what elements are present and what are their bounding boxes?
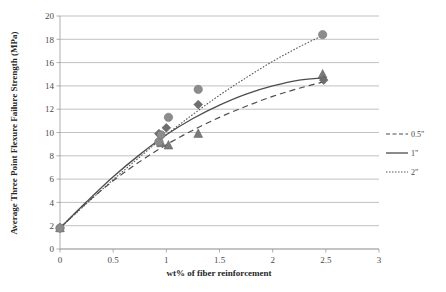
data-point-circle bbox=[56, 224, 64, 232]
x-axis-title: wt% of fiber reinforcement bbox=[166, 268, 271, 278]
x-tick-label: 3 bbox=[377, 255, 382, 265]
data-point-circle bbox=[318, 30, 326, 38]
data-point-circle bbox=[164, 113, 172, 121]
y-tick-label: 6 bbox=[50, 174, 55, 184]
x-tick-label: 2 bbox=[270, 255, 275, 265]
y-tick-label: 8 bbox=[50, 151, 55, 161]
legend-label: 0.5" bbox=[411, 130, 424, 139]
data-point-circle bbox=[194, 85, 202, 93]
y-tick-label: 20 bbox=[45, 11, 55, 21]
y-tick-label: 4 bbox=[50, 198, 55, 208]
x-axis-ticks-group: 00.511.522.53 bbox=[58, 249, 382, 265]
y-tick-label: 14 bbox=[45, 81, 55, 91]
chart-container: 02468101214161820 00.511.522.53 Average … bbox=[0, 0, 446, 292]
x-tick-label: 1.5 bbox=[214, 255, 226, 265]
legend-label: 1" bbox=[411, 149, 418, 158]
y-axis-title: Average Three Point Flexure Failure Stre… bbox=[9, 32, 19, 235]
x-tick-label: 0.5 bbox=[108, 255, 120, 265]
x-tick-label: 2.5 bbox=[320, 255, 332, 265]
legend-label: 2" bbox=[411, 168, 418, 177]
x-tick-label: 1 bbox=[164, 255, 169, 265]
legend: 0.5"1"2" bbox=[386, 130, 424, 177]
y-tick-label: 12 bbox=[45, 104, 54, 114]
y-tick-label: 18 bbox=[45, 35, 55, 45]
y-axis-ticks-group: 02468101214161820 bbox=[45, 11, 60, 254]
flexure-strength-scatter-chart: 02468101214161820 00.511.522.53 Average … bbox=[0, 0, 446, 292]
y-tick-label: 2 bbox=[50, 221, 55, 231]
y-tick-label: 16 bbox=[45, 58, 55, 68]
data-point-circle bbox=[157, 131, 165, 139]
x-tick-label: 0 bbox=[58, 255, 63, 265]
y-tick-label: 0 bbox=[50, 244, 55, 254]
y-tick-label: 10 bbox=[45, 128, 55, 138]
